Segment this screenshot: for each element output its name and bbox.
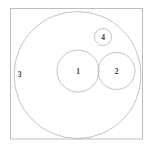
euler-diagram-figure: 3 1 2 4 [0,0,153,148]
set-4-label: 4 [101,33,105,42]
diagram-canvas: 3 1 2 4 [0,0,153,148]
set-2-label: 2 [115,67,119,76]
set-3-label: 3 [18,70,22,79]
set-1-label: 1 [76,67,80,76]
